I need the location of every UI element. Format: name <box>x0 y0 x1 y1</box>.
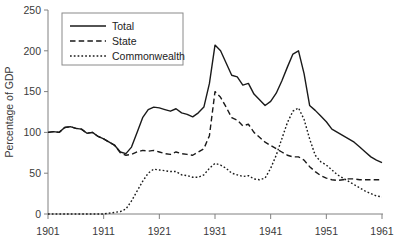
x-tick-label: 1911 <box>92 225 115 237</box>
series-state <box>48 92 382 181</box>
x-tick-label: 1941 <box>259 225 283 237</box>
x-tick-label: 1931 <box>203 225 227 237</box>
series-commonwealth <box>48 108 382 214</box>
y-tick-label: 150 <box>23 85 41 97</box>
x-tick-label: 1961 <box>370 225 394 237</box>
legend-label-commonwealth: Commonwealth <box>112 50 185 62</box>
line-chart: 0501001502002501901191119211931194119511… <box>0 0 399 247</box>
legend-label-total: Total <box>112 20 134 32</box>
y-axis-title: Percentage of GDP <box>3 66 15 157</box>
x-tick-label: 1951 <box>315 225 339 237</box>
y-tick-label: 50 <box>29 167 41 179</box>
y-tick-label: 0 <box>35 208 41 220</box>
chart-container: 0501001502002501901191119211931194119511… <box>0 0 399 247</box>
legend-label-state: State <box>112 35 137 47</box>
x-tick-label: 1901 <box>36 225 60 237</box>
y-tick-label: 100 <box>23 126 41 138</box>
x-tick-label: 1921 <box>148 225 172 237</box>
y-tick-label: 200 <box>23 45 41 57</box>
y-tick-label: 250 <box>23 4 41 16</box>
